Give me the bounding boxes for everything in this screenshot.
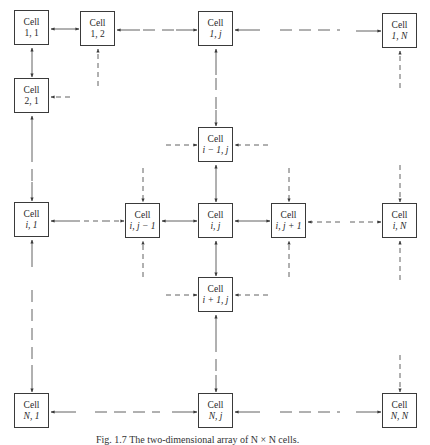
- cell-i-1: Cell i, 1: [14, 202, 49, 237]
- cell-index: i + 1, j: [203, 295, 229, 306]
- cell-index: 2, 1: [24, 96, 38, 107]
- cell-label: Cell: [208, 134, 224, 145]
- cell-label: Cell: [208, 210, 224, 221]
- cell-index: i, N: [393, 221, 407, 232]
- cell-index: N, j: [209, 411, 223, 422]
- cell-index: i, j: [210, 221, 220, 232]
- cell-label: Cell: [392, 400, 408, 411]
- cell-label: Cell: [281, 210, 297, 221]
- cell-1-j: Cell 1, j: [198, 11, 233, 46]
- cell-i-minus-1-j: Cell i − 1, j: [198, 127, 233, 162]
- cell-i-j-plus-1: Cell i, j + 1: [271, 203, 306, 238]
- cell-index: N, 1: [24, 411, 40, 422]
- cell-N-j: Cell N, j: [198, 393, 233, 428]
- cell-label: Cell: [392, 210, 408, 221]
- cell-label: Cell: [392, 20, 408, 31]
- cell-index: 1, 1: [24, 28, 38, 39]
- cell-i-j: Cell i, j: [198, 203, 233, 238]
- cell-label: Cell: [24, 17, 40, 28]
- cell-label: Cell: [208, 400, 224, 411]
- cell-i-j-minus-1: Cell i, j − 1: [125, 203, 160, 238]
- cell-label: Cell: [24, 85, 40, 96]
- cell-index: 1, 2: [90, 29, 104, 40]
- cell-label: Cell: [208, 284, 224, 295]
- cell-label: Cell: [90, 18, 106, 29]
- cell-index: i, j − 1: [130, 221, 156, 232]
- cell-N-1: Cell N, 1: [14, 393, 49, 428]
- cell-1-N: Cell 1, N: [382, 13, 417, 48]
- cell-index: 1, j: [209, 29, 221, 40]
- cell-label: Cell: [208, 18, 224, 29]
- figure-caption: Fig. 1.7 The two-dimensional array of N …: [96, 434, 356, 445]
- cell-i-N: Cell i, N: [382, 203, 417, 238]
- cell-label: Cell: [135, 210, 151, 221]
- cell-index: 1, N: [392, 31, 408, 42]
- cell-index: N, N: [391, 411, 408, 422]
- cell-2-1: Cell 2, 1: [14, 78, 49, 113]
- cell-index: i, j + 1: [276, 221, 302, 232]
- cell-index: i − 1, j: [203, 145, 229, 156]
- cell-1-1: Cell 1, 1: [14, 10, 49, 45]
- cell-index: i, 1: [25, 220, 37, 231]
- cell-label: Cell: [24, 400, 40, 411]
- cell-label: Cell: [24, 209, 40, 220]
- cell-1-2: Cell 1, 2: [80, 11, 115, 46]
- cell-i-plus-1-j: Cell i + 1, j: [198, 277, 233, 312]
- cell-N-N: Cell N, N: [382, 393, 417, 428]
